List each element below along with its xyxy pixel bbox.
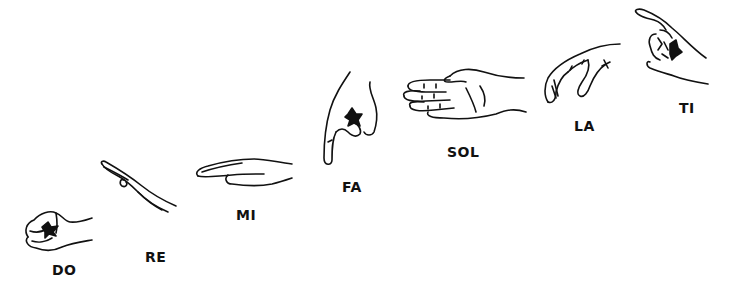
index-finger-pointing-up-sign-icon: [632, 8, 732, 86]
label-ti: TI: [679, 101, 695, 115]
relaxed-hand-drooping-sign-icon: [542, 40, 624, 106]
solfege-hand-signs-diagram: DO RE MI FA: [0, 0, 736, 293]
label-sol: SOL: [447, 145, 479, 159]
label-re: RE: [145, 250, 166, 264]
closed-fist-hand-sign-icon: [20, 205, 95, 255]
flat-hand-angled-up-sign-icon: [98, 160, 180, 220]
label-do: DO: [52, 263, 77, 277]
label-fa: FA: [342, 180, 362, 194]
flat-hand-horizontal-sign-icon: [192, 156, 297, 191]
open-palm-facing-in-sign-icon: [400, 66, 530, 126]
label-mi: MI: [236, 208, 256, 222]
label-la: LA: [574, 119, 595, 133]
thumb-pointing-down-sign-icon: [318, 70, 383, 170]
